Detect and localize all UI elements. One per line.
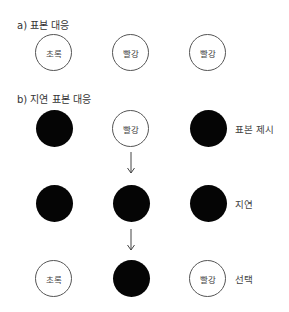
stimulus-circle-red: 빨강 [112, 34, 149, 71]
choice-circle-green: 초록 [35, 260, 72, 297]
down-arrow-icon [126, 152, 136, 174]
blank-circle [190, 110, 227, 147]
row-label-sample: 표본 제시 [235, 122, 274, 136]
stimulus-circle-green: 초록 [35, 34, 72, 71]
blank-circle [36, 110, 73, 147]
choice-circle-red: 빨강 [189, 260, 226, 297]
stimulus-circle-red: 빨강 [189, 34, 226, 71]
sample-circle-red: 빨강 [112, 110, 149, 147]
blank-circle [113, 260, 150, 297]
blank-circle [36, 185, 73, 222]
row-label-delay: 지연 [235, 197, 253, 211]
row-label-choice: 선택 [235, 272, 253, 286]
section-b-title: b) 지연 표본 대응 [17, 91, 91, 106]
blank-circle [113, 185, 150, 222]
section-a-title: a) 표본 대응 [17, 17, 69, 32]
blank-circle [190, 185, 227, 222]
down-arrow-icon [126, 229, 136, 251]
